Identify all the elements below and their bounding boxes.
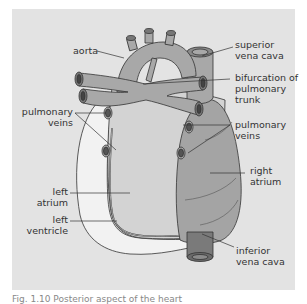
label-pulmonary-veins-left: pulmonary veins	[18, 106, 73, 128]
label-line: atrium	[18, 197, 68, 208]
label-right-atrium: right atrium	[250, 165, 281, 187]
label-line: veins	[235, 130, 286, 141]
label-left-atrium: left atrium	[18, 186, 68, 208]
label-line: vena cava	[235, 50, 284, 61]
label-line: ventricle	[18, 225, 68, 236]
label-line: pulmonary	[235, 83, 298, 94]
label-line: inferior	[236, 245, 285, 256]
label-line: left	[18, 214, 68, 225]
label-line: bifurcation of	[235, 72, 298, 83]
label-pulmonary-veins-right: pulmonary veins	[235, 119, 286, 141]
label-line: left	[18, 186, 68, 197]
right-atrium-shape	[176, 100, 241, 244]
label-line: pulmonary	[235, 119, 286, 130]
label-left-ventricle: left ventricle	[18, 214, 68, 236]
label-line: pulmonary	[18, 106, 73, 117]
label-line: atrium	[250, 176, 281, 187]
label-aorta: aorta	[73, 45, 98, 56]
figure-caption: Fig. 1.10 Posterior aspect of the heart	[12, 294, 182, 304]
label-line: trunk	[235, 94, 298, 105]
label-line: vena cava	[236, 256, 285, 267]
label-line: right	[250, 165, 281, 176]
label-superior-vena-cava: superior vena cava	[235, 39, 284, 61]
label-inferior-vena-cava: inferior vena cava	[236, 245, 285, 267]
label-bifurcation-pulmonary-trunk: bifurcation of pulmonary trunk	[235, 72, 298, 105]
label-line: superior	[235, 39, 284, 50]
label-line: veins	[18, 117, 73, 128]
